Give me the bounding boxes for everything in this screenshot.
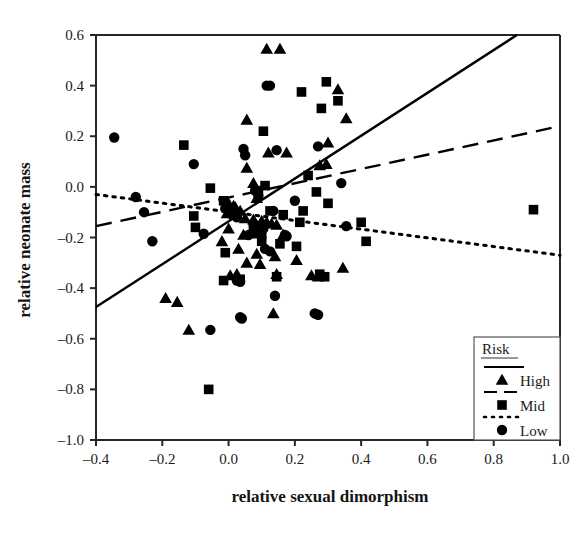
data-point-circle	[189, 159, 199, 169]
legend-label: High	[520, 373, 551, 389]
data-point-square	[206, 183, 216, 193]
data-point-square	[278, 210, 288, 220]
y-tick-label: –0.8	[57, 381, 84, 397]
data-point-circle	[240, 150, 250, 160]
scatter-plot: –0.4–0.20.00.20.40.60.81.0 0.60.40.20.0–…	[0, 0, 588, 536]
data-point-circle	[248, 218, 258, 228]
data-point-circle	[290, 196, 300, 206]
data-point-square	[259, 126, 269, 136]
data-point-square	[317, 104, 327, 114]
data-point-square	[219, 276, 229, 286]
data-point-square	[260, 181, 270, 191]
data-point-circle	[199, 229, 209, 239]
data-point-circle	[237, 313, 247, 323]
legend-title: Risk	[482, 341, 510, 357]
data-point-square	[356, 218, 366, 228]
legend-label: Low	[520, 423, 548, 439]
data-point-square	[292, 242, 302, 252]
x-axis-title: relative sexual dimorphism	[231, 487, 428, 506]
data-point-square	[312, 187, 322, 197]
y-tick-label: –1.0	[57, 432, 84, 448]
data-point-circle	[131, 192, 141, 202]
data-point-circle	[281, 231, 291, 241]
data-point-circle	[243, 230, 253, 240]
data-point-square	[322, 77, 332, 87]
y-tick-label: 0.0	[65, 179, 84, 195]
data-point-square	[529, 205, 539, 215]
data-point-circle	[336, 178, 346, 188]
y-tick-label: –0.2	[57, 230, 84, 246]
data-point-square	[204, 385, 214, 395]
chart-root: –0.4–0.20.00.20.40.60.81.0 0.60.40.20.0–…	[0, 0, 588, 536]
x-tick-label: 1.0	[551, 451, 570, 467]
data-point-square	[297, 87, 307, 97]
data-point-circle	[265, 80, 275, 90]
x-tick-label: 0.2	[285, 451, 304, 467]
y-tick-label: 0.6	[65, 27, 84, 43]
data-point-circle	[313, 141, 323, 151]
x-tick-label: –0.2	[148, 451, 175, 467]
x-tick-label: –0.4	[82, 451, 110, 467]
x-tick-label: 0.6	[418, 451, 437, 467]
data-point-circle	[258, 223, 268, 233]
y-tick-label: 0.4	[65, 78, 84, 94]
data-point-circle	[268, 206, 278, 216]
data-point-square	[191, 223, 201, 233]
data-point-circle	[139, 207, 149, 217]
y-tick-label: –0.6	[57, 331, 85, 347]
data-point-circle	[270, 291, 280, 301]
data-point-square	[295, 218, 305, 228]
data-point-circle	[253, 191, 263, 201]
data-point-square	[272, 272, 282, 282]
data-point-circle	[341, 221, 351, 231]
data-point-square	[189, 211, 199, 221]
data-point-circle	[235, 277, 245, 287]
legend-marker-square	[497, 400, 507, 410]
data-point-circle	[271, 145, 281, 155]
y-tick-label: –0.4	[57, 280, 85, 296]
data-point-square	[275, 239, 285, 249]
legend-label: Mid	[520, 398, 546, 414]
data-point-circle	[220, 203, 230, 213]
y-tick-label: 0.2	[65, 128, 84, 144]
y-axis-title: relative neonate mass	[15, 162, 34, 318]
data-point-square	[323, 199, 333, 209]
data-point-square	[333, 96, 343, 106]
x-tick-label: 0.0	[219, 451, 238, 467]
x-tick-label: 0.8	[484, 451, 503, 467]
data-point-square	[220, 248, 230, 258]
data-point-square	[320, 272, 330, 282]
x-tick-label: 0.4	[352, 451, 371, 467]
data-point-square	[298, 206, 308, 216]
data-point-square	[361, 236, 371, 246]
data-point-circle	[313, 310, 323, 320]
data-point-square	[303, 171, 313, 181]
data-point-circle	[147, 236, 157, 246]
data-point-circle	[205, 325, 215, 335]
data-point-circle	[265, 246, 275, 256]
legend-marker-circle	[497, 425, 507, 435]
data-point-square	[179, 140, 189, 150]
data-point-circle	[109, 132, 119, 142]
data-point-circle	[232, 212, 242, 222]
legend: RiskHighMidLow	[474, 337, 560, 440]
